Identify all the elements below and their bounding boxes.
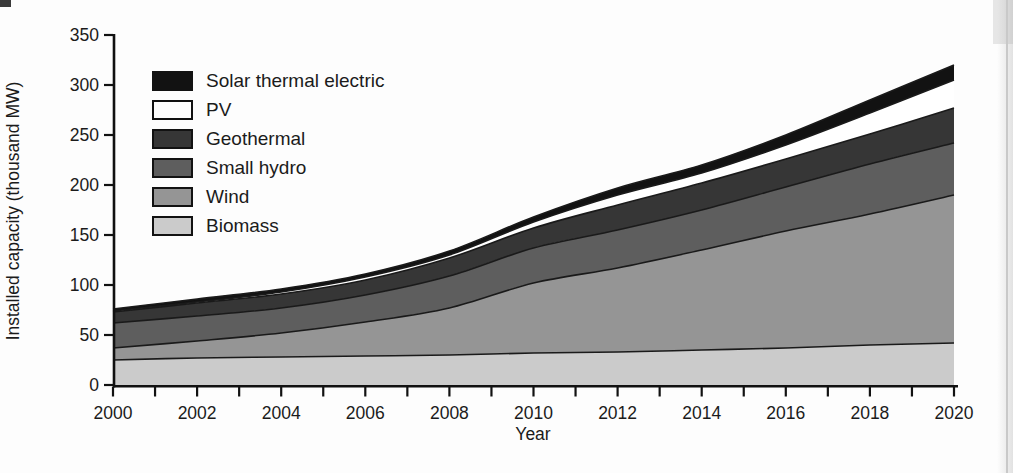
y-tick-label-0: 0 <box>89 375 99 395</box>
legend-label: Small hydro <box>206 157 306 179</box>
scan-artifact-top-right-smudge <box>993 0 1013 44</box>
x-tick-label-2000: 2000 <box>94 403 133 423</box>
legend-item-biomass: Biomass <box>152 216 384 236</box>
y-axis-title: Installed capacity (thousand MW) <box>3 82 23 341</box>
legend-label: Geothermal <box>206 128 305 150</box>
legend-swatch-pv <box>152 100 193 120</box>
y-tick-label-300: 300 <box>70 75 99 95</box>
scan-artifact-page-edge <box>997 0 1013 473</box>
x-tick-label-2010: 2010 <box>514 403 553 423</box>
scan-artifact-edge-line <box>1006 0 1008 473</box>
x-tick-label-2018: 2018 <box>850 403 889 423</box>
x-tick-label-2004: 2004 <box>262 403 301 423</box>
legend-swatch-solar-thermal-electric <box>152 71 193 91</box>
y-tick-label-150: 150 <box>70 225 99 245</box>
x-tick-label-2008: 2008 <box>430 403 469 423</box>
legend-swatch-geothermal <box>152 129 193 149</box>
y-tick-label-250: 250 <box>70 125 99 145</box>
legend-swatch-small-hydro <box>152 158 193 178</box>
legend-item-small-hydro: Small hydro <box>152 158 384 178</box>
legend-item-pv: PV <box>152 100 384 120</box>
y-tick-label-200: 200 <box>70 175 99 195</box>
scan-artifact-corner-speck <box>0 0 11 7</box>
x-tick-label-2012: 2012 <box>598 403 637 423</box>
x-tick-label-2002: 2002 <box>178 403 217 423</box>
x-tick-label-2016: 2016 <box>766 403 805 423</box>
x-tick-label-2006: 2006 <box>346 403 385 423</box>
x-tick-label-2020: 2020 <box>935 403 974 423</box>
legend-label: Solar thermal electric <box>206 70 384 92</box>
y-tick-label-50: 50 <box>80 325 100 345</box>
scanned-figure-page: 0501001502002503003502000200220042006200… <box>0 0 1013 473</box>
y-tick-label-350: 350 <box>70 25 99 45</box>
legend-label: PV <box>206 99 231 121</box>
legend-label: Biomass <box>206 215 279 237</box>
x-axis-title: Year <box>515 424 551 444</box>
legend-item-wind: Wind <box>152 187 384 207</box>
y-tick-label-100: 100 <box>70 275 99 295</box>
legend-label: Wind <box>206 186 249 208</box>
chart-legend: Solar thermal electricPVGeothermalSmall … <box>152 71 384 245</box>
legend-item-solar-thermal-electric: Solar thermal electric <box>152 71 384 91</box>
legend-swatch-biomass <box>152 216 193 236</box>
legend-item-geothermal: Geothermal <box>152 129 384 149</box>
x-tick-label-2014: 2014 <box>682 403 721 423</box>
legend-swatch-wind <box>152 187 193 207</box>
